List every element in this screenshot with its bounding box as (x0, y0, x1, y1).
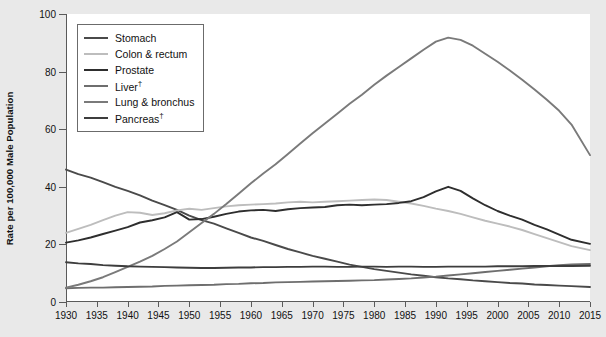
y-tick-label: 20 (45, 239, 56, 250)
y-tick-label: 60 (45, 124, 56, 135)
legend-item-stomach[interactable]: Stomach (84, 30, 194, 46)
x-tick-mark (313, 302, 314, 307)
chart-figure: Rate per 100,000 Male Population 0204060… (0, 0, 606, 337)
y-tick-mark (59, 129, 66, 130)
y-axis-label: Rate per 100,000 Male Population (0, 0, 20, 337)
legend-label: Pancreas† (115, 112, 164, 124)
legend-swatch (84, 53, 108, 55)
y-tick-label: 40 (45, 181, 56, 192)
x-tick-mark (498, 302, 499, 307)
y-tick-label: 80 (45, 66, 56, 77)
x-tick-label: 1960 (240, 310, 262, 321)
series-line-pancreas (66, 262, 590, 268)
y-tick-mark (59, 14, 66, 15)
x-tick-mark (405, 302, 406, 307)
x-tick-mark (528, 302, 529, 307)
x-tick-mark (158, 302, 159, 307)
y-tick-mark (59, 244, 66, 245)
legend-footnote-marker: † (159, 111, 163, 120)
legend-swatch (84, 85, 108, 87)
legend-item-liver[interactable]: Liver† (84, 78, 194, 94)
x-tick-mark (97, 302, 98, 307)
x-tick-label: 1935 (86, 310, 108, 321)
series-line-prostate (66, 187, 590, 244)
chart-legend: StomachColon & rectumProstateLiver†Lung … (77, 24, 204, 132)
x-tick-mark (189, 302, 190, 307)
x-tick-label: 2000 (486, 310, 508, 321)
x-tick-label: 2005 (517, 310, 539, 321)
legend-label: Colon & rectum (115, 49, 187, 60)
x-tick-label: 2010 (548, 310, 570, 321)
x-tick-mark (559, 302, 560, 307)
x-tick-label: 2015 (579, 310, 601, 321)
legend-swatch (84, 117, 108, 119)
x-tick-label: 1995 (456, 310, 478, 321)
x-tick-label: 1945 (147, 310, 169, 321)
x-tick-mark (436, 302, 437, 307)
x-tick-label: 1985 (394, 310, 416, 321)
legend-item-prostate[interactable]: Prostate (84, 62, 194, 78)
legend-label: Lung & bronchus (115, 97, 194, 108)
legend-item-lung-bronchus[interactable]: Lung & bronchus (84, 94, 194, 110)
x-tick-mark (66, 302, 67, 307)
y-tick-label: 0 (50, 297, 56, 308)
legend-footnote-marker: † (138, 79, 142, 88)
x-tick-label: 1970 (301, 310, 323, 321)
x-tick-mark (282, 302, 283, 307)
x-tick-mark (374, 302, 375, 307)
x-tick-mark (251, 302, 252, 307)
y-tick-mark (59, 302, 66, 303)
legend-label: Stomach (115, 33, 156, 44)
x-tick-label: 1930 (55, 310, 77, 321)
x-tick-label: 1975 (332, 310, 354, 321)
x-tick-mark (343, 302, 344, 307)
x-tick-label: 1950 (178, 310, 200, 321)
legend-item-pancreas[interactable]: Pancreas† (84, 110, 194, 126)
legend-swatch (84, 69, 108, 71)
x-tick-label: 1980 (363, 310, 385, 321)
x-tick-mark (128, 302, 129, 307)
x-tick-label: 1940 (117, 310, 139, 321)
legend-label: Prostate (115, 65, 154, 76)
x-tick-mark (220, 302, 221, 307)
legend-swatch (84, 101, 108, 103)
y-tick-mark (59, 72, 66, 73)
x-tick-mark (467, 302, 468, 307)
legend-label: Liver† (115, 80, 142, 92)
x-tick-label: 1990 (425, 310, 447, 321)
x-tick-label: 1955 (209, 310, 231, 321)
y-tick-mark (59, 187, 66, 188)
x-tick-mark (590, 302, 591, 307)
legend-swatch (84, 37, 108, 39)
y-tick-label: 100 (39, 9, 56, 20)
legend-item-colon-rectum[interactable]: Colon & rectum (84, 46, 194, 62)
x-tick-label: 1965 (271, 310, 293, 321)
